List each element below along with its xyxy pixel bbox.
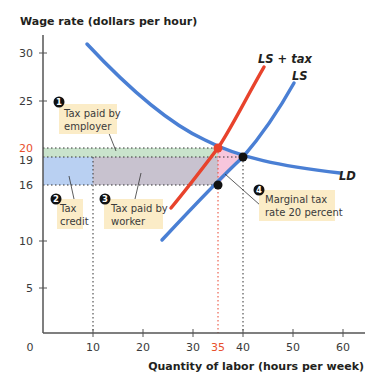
x-tick-35: 35 [211,341,225,354]
ld-label: LD [339,169,356,183]
svg-text:rate 20 percent: rate 20 percent [265,207,343,218]
svg-text:worker: worker [111,216,146,227]
x-tick-60: 60 [336,341,350,354]
svg-text:Tax: Tax [59,203,77,214]
svg-text:Tax paid by: Tax paid by [63,108,121,119]
y-tick-30: 30 [19,47,33,60]
x-tick-40: 40 [236,341,250,354]
y-tick-16: 16 [19,179,33,192]
svg-text:employer: employer [64,121,112,132]
svg-text:Marginal tax: Marginal tax [265,194,327,205]
y-tick-10: 10 [19,235,33,248]
y-axis-title: Wage rate (dollars per hour) [20,15,197,28]
x-tick-50: 50 [286,341,300,354]
note-tax-paid-by-worker: Tax paid by worker 3 [100,194,168,230]
svg-text:1: 1 [56,97,62,107]
note-tax-credit: Tax credit 2 [51,194,89,230]
y-tick-25: 25 [19,95,33,108]
svg-text:4: 4 [256,185,262,195]
worker-wage-point [214,181,223,190]
svg-text:credit: credit [60,216,89,227]
x-tick-20: 20 [136,341,150,354]
after-tax-equilibrium-point [214,144,223,153]
note-marginal-tax-rate: Marginal tax rate 20 percent 4 [254,185,343,222]
svg-text:2: 2 [53,194,59,204]
labor-market-chart: 30 25 20 19 16 10 5 0 10 20 30 35 40 50 … [0,0,386,391]
ls-tax-label: LS + tax [258,52,313,66]
tax-credit-region [43,157,93,185]
y-tick-5: 5 [26,282,33,295]
y-tick-19: 19 [19,154,33,167]
x-tick-0: 0 [27,341,34,354]
x-tick-30: 30 [186,341,200,354]
note-tax-paid-by-employer: Tax paid by employer 1 [54,97,121,135]
pre-tax-equilibrium-point [239,153,248,162]
svg-text:Tax paid by: Tax paid by [110,203,168,214]
svg-text:3: 3 [102,194,108,204]
ls-label: LS [292,69,308,83]
employer-tax-region [43,148,218,157]
x-tick-10: 10 [86,341,100,354]
x-axis-title: Quantity of labor (hours per week) [148,360,364,373]
